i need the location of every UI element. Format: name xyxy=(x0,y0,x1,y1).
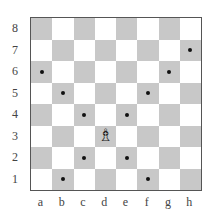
file-label-g: g xyxy=(158,195,179,210)
square-c8 xyxy=(74,18,95,40)
square-c5 xyxy=(74,83,95,105)
square-h5 xyxy=(180,83,201,105)
square-e8 xyxy=(116,18,137,40)
chessboard: ♗ xyxy=(30,17,202,191)
rank-label-4: 4 xyxy=(9,107,21,122)
move-marker-dot xyxy=(125,113,129,117)
move-marker-dot xyxy=(82,156,86,160)
square-f4 xyxy=(137,104,158,126)
square-f3 xyxy=(137,126,158,148)
square-d4 xyxy=(95,104,116,126)
square-c2 xyxy=(74,147,95,169)
move-marker-dot xyxy=(146,177,150,181)
white-bishop-icon: ♗ xyxy=(98,127,113,144)
rank-label-5: 5 xyxy=(9,86,21,101)
square-g6 xyxy=(159,61,180,83)
move-marker-dot xyxy=(82,113,86,117)
square-b5 xyxy=(52,83,73,105)
move-marker-dot xyxy=(146,91,150,95)
file-label-c: c xyxy=(73,195,94,210)
square-e6 xyxy=(116,61,137,83)
square-g5 xyxy=(159,83,180,105)
file-label-b: b xyxy=(51,195,72,210)
move-marker-dot xyxy=(40,70,44,74)
rank-label-8: 8 xyxy=(9,21,21,36)
square-f6 xyxy=(137,61,158,83)
square-f7 xyxy=(137,40,158,62)
square-h6 xyxy=(180,61,201,83)
file-label-e: e xyxy=(115,195,136,210)
file-label-h: h xyxy=(179,195,200,210)
square-e4 xyxy=(116,104,137,126)
square-h2 xyxy=(180,147,201,169)
file-label-f: f xyxy=(136,195,157,210)
square-h7 xyxy=(180,40,201,62)
move-marker-dot xyxy=(167,70,171,74)
square-g3 xyxy=(159,126,180,148)
square-b1 xyxy=(52,169,73,191)
square-f5 xyxy=(137,83,158,105)
square-g8 xyxy=(159,18,180,40)
square-c7 xyxy=(74,40,95,62)
square-a4 xyxy=(31,104,52,126)
file-label-d: d xyxy=(94,195,115,210)
move-marker-dot xyxy=(61,91,65,95)
move-marker-dot xyxy=(61,177,65,181)
square-g7 xyxy=(159,40,180,62)
file-label-a: a xyxy=(30,195,51,210)
square-e7 xyxy=(116,40,137,62)
square-e3 xyxy=(116,126,137,148)
square-a6 xyxy=(31,61,52,83)
square-g4 xyxy=(159,104,180,126)
square-a5 xyxy=(31,83,52,105)
square-h1 xyxy=(180,169,201,191)
rank-label-1: 1 xyxy=(9,172,21,187)
square-c4 xyxy=(74,104,95,126)
square-d2 xyxy=(95,147,116,169)
square-f1 xyxy=(137,169,158,191)
square-g2 xyxy=(159,147,180,169)
square-h8 xyxy=(180,18,201,40)
square-a2 xyxy=(31,147,52,169)
square-h4 xyxy=(180,104,201,126)
square-d8 xyxy=(95,18,116,40)
rank-label-2: 2 xyxy=(9,150,21,165)
square-b8 xyxy=(52,18,73,40)
square-d6 xyxy=(95,61,116,83)
square-a8 xyxy=(31,18,52,40)
square-d5 xyxy=(95,83,116,105)
square-f8 xyxy=(137,18,158,40)
square-f2 xyxy=(137,147,158,169)
square-a7 xyxy=(31,40,52,62)
square-b6 xyxy=(52,61,73,83)
square-b2 xyxy=(52,147,73,169)
rank-label-6: 6 xyxy=(9,64,21,79)
square-c6 xyxy=(74,61,95,83)
square-d3: ♗ xyxy=(95,126,116,148)
square-c3 xyxy=(74,126,95,148)
square-e1 xyxy=(116,169,137,191)
square-d1 xyxy=(95,169,116,191)
square-a1 xyxy=(31,169,52,191)
move-marker-dot xyxy=(188,48,192,52)
square-h3 xyxy=(180,126,201,148)
square-a3 xyxy=(31,126,52,148)
square-b7 xyxy=(52,40,73,62)
square-b3 xyxy=(52,126,73,148)
square-c1 xyxy=(74,169,95,191)
square-d7 xyxy=(95,40,116,62)
square-g1 xyxy=(159,169,180,191)
square-e5 xyxy=(116,83,137,105)
square-e2 xyxy=(116,147,137,169)
rank-label-3: 3 xyxy=(9,129,21,144)
square-b4 xyxy=(52,104,73,126)
move-marker-dot xyxy=(125,156,129,160)
rank-label-7: 7 xyxy=(9,43,21,58)
